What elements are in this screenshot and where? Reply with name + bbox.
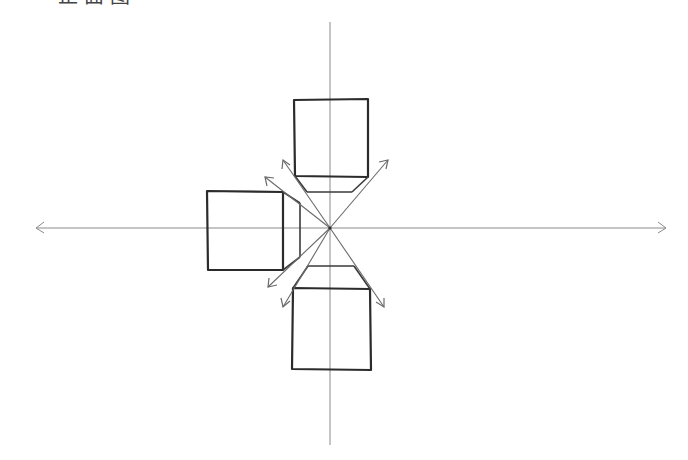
bottom-box — [292, 266, 371, 370]
left-box — [207, 191, 300, 270]
perspective-diagram — [0, 0, 688, 460]
vanishing-point — [328, 226, 331, 229]
ray-upper-left — [283, 160, 330, 228]
ray-lower-right — [330, 228, 384, 307]
left-box-front-face — [207, 191, 283, 270]
axes — [36, 22, 666, 445]
ray-upper-right — [330, 160, 388, 228]
top-box-right-receding-edge — [352, 177, 368, 192]
top-box — [294, 99, 368, 192]
bottom-box-front-face — [292, 288, 371, 370]
bottom-box-right-receding-edge — [354, 266, 370, 289]
arrow-head-icon — [376, 298, 384, 307]
top-box-front-face — [294, 99, 368, 177]
ray-left-upper — [265, 177, 330, 228]
ray-lower-left — [283, 228, 330, 307]
top-box-left-receding-edge — [295, 176, 307, 192]
